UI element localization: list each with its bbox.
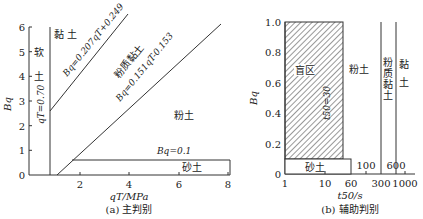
svg-text:300: 300 [371, 178, 390, 189]
svg-text:0.4: 0.4 [265, 108, 281, 119]
x-axis-label-a: qT/MPa [110, 191, 149, 202]
y-tick-labels-b: 1.0 0.8 0.6 0.4 0.2 0 [265, 17, 281, 180]
y-axis-label-a: Bq [2, 97, 13, 112]
svg-text:4: 4 [19, 71, 25, 82]
x-tick-labels-a: 2 4 6 8 [77, 179, 231, 190]
label-sand-a: 砂土 [182, 161, 202, 173]
caption-a: (a) 主判别 [106, 204, 153, 215]
svg-text:3: 3 [19, 96, 25, 107]
label-clay-b: 黏 土 [399, 58, 409, 88]
chart-b: 1.0 0.8 0.6 0.4 0.2 0 1 10 60 300 1000 t… [248, 17, 418, 215]
label-600: 600 [386, 160, 405, 171]
svg-text:0.6: 0.6 [265, 78, 281, 89]
svg-text:0: 0 [19, 170, 25, 181]
label-eq3: Bq=0.1 [156, 146, 191, 156]
svg-text:10: 10 [319, 178, 332, 189]
svg-text:1: 1 [282, 178, 288, 189]
svg-text:黏: 黏 [399, 58, 409, 70]
label-soft-2: 土 [34, 70, 44, 82]
label-silty-clay-b: 粉 质 黏 土 [383, 56, 393, 101]
svg-text:2: 2 [77, 179, 83, 190]
svg-text:土: 土 [399, 76, 409, 88]
svg-text:粉: 粉 [383, 56, 393, 68]
label-soft-1: 软 [34, 46, 44, 58]
y-axis-label-b: Bq [248, 91, 259, 106]
svg-text:0.2: 0.2 [265, 139, 281, 150]
x-axis-label-b: t50/s [337, 190, 362, 201]
svg-text:6: 6 [176, 179, 182, 190]
svg-text:5: 5 [19, 47, 25, 58]
svg-text:0: 0 [275, 169, 281, 180]
svg-text:6: 6 [19, 22, 25, 33]
label-100: 100 [356, 160, 375, 171]
label-vline: qT=0.70 [36, 84, 46, 124]
blind-zone [285, 22, 343, 159]
chart-figure: 6 5 4 3 2 1 0 2 4 6 8 qT/MPa Bq (a) 主判别 [0, 0, 423, 219]
chart-a: 6 5 4 3 2 1 0 2 4 6 8 qT/MPa Bq (a) 主判别 [2, 1, 231, 215]
svg-text:1.0: 1.0 [265, 17, 281, 28]
label-blind: 盲区 [295, 64, 315, 76]
x-tick-labels-b: 1 10 60 300 1000 [282, 178, 418, 189]
label-silt-a: 粉土 [174, 109, 194, 121]
svg-text:质: 质 [383, 68, 393, 79]
svg-text:黏: 黏 [383, 78, 393, 90]
svg-text:2: 2 [19, 121, 25, 132]
label-t50: t50=30 [322, 86, 332, 120]
svg-text:0.8: 0.8 [265, 47, 281, 58]
label-silt-b: 粉土 [349, 63, 369, 75]
svg-text:土: 土 [383, 89, 393, 101]
svg-text:1: 1 [19, 145, 25, 156]
caption-b: (b) 辅助判别 [321, 203, 378, 215]
svg-text:1000: 1000 [392, 178, 417, 189]
svg-text:4: 4 [126, 179, 132, 190]
svg-text:8: 8 [225, 179, 231, 190]
label-clay-a: 黏 土 [54, 28, 77, 40]
y-tick-labels-a: 6 5 4 3 2 1 0 [19, 22, 25, 181]
svg-text:60: 60 [345, 178, 358, 189]
label-sand-b: 砂土 [305, 161, 325, 173]
